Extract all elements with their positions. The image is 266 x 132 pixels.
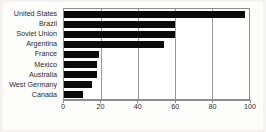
- bar-row: [64, 69, 249, 79]
- x-axis-tick-label: 20: [96, 103, 104, 111]
- bar: [64, 11, 245, 18]
- bar: [64, 51, 99, 58]
- x-axis-tick-label: 100: [244, 103, 256, 111]
- bar-chart: United States Brazil Soviet Union Argent…: [0, 0, 266, 132]
- category-label: France: [0, 49, 60, 59]
- bar: [64, 31, 175, 38]
- bar-row: [64, 59, 249, 69]
- x-axis-tick-labels: 020406080100: [63, 103, 250, 115]
- bar: [64, 61, 97, 68]
- x-axis-tick-label: 40: [134, 103, 142, 111]
- bar: [64, 71, 97, 78]
- bar-series: [64, 9, 249, 99]
- bar-row: [64, 49, 249, 59]
- category-label: United States: [0, 8, 60, 18]
- bar: [64, 91, 83, 98]
- category-label: Argentina: [0, 39, 60, 49]
- category-label: Australia: [0, 69, 60, 79]
- category-axis-labels: United States Brazil Soviet Union Argent…: [0, 8, 60, 100]
- category-label: Canada: [0, 90, 60, 100]
- bar-row: [64, 9, 249, 19]
- category-label: Soviet Union: [0, 28, 60, 38]
- x-axis-tick-label: 0: [61, 103, 65, 111]
- bar-row: [64, 19, 249, 29]
- x-axis-tick-label: 80: [209, 103, 217, 111]
- category-label: West Germany: [0, 80, 60, 90]
- category-label: Brazil: [0, 18, 60, 28]
- bar: [64, 41, 164, 48]
- bar-row: [64, 29, 249, 39]
- x-axis-tick-label: 60: [171, 103, 179, 111]
- bar-row: [64, 79, 249, 89]
- bar: [64, 21, 175, 28]
- bar-row: [64, 89, 249, 99]
- category-label: Mexico: [0, 59, 60, 69]
- bar: [64, 81, 92, 88]
- bar-row: [64, 39, 249, 49]
- plot-area: [63, 8, 250, 100]
